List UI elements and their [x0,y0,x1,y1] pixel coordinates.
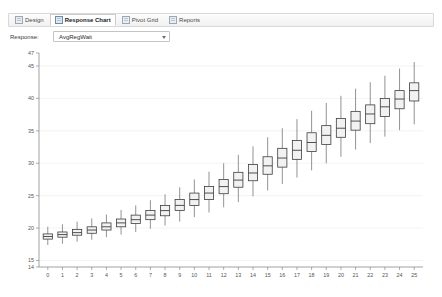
design-icon [15,16,23,24]
y-tick-label: 25 [28,193,34,199]
box-whisker-group [336,96,345,157]
x-tick-label: 5 [120,272,123,278]
tab-design[interactable]: Design [10,14,49,26]
y-tick-label: 45 [28,63,34,69]
tab-response-chart-label: Response Chart [65,14,111,26]
x-tick-label: 23 [382,272,388,278]
report-icon [169,16,177,24]
grid-icon [122,16,130,24]
x-tick-label: 1 [61,272,64,278]
y-tick-label: 35 [28,128,34,134]
tab-pivot-grid[interactable]: Pivot Grid [117,14,163,26]
box-whisker-group [307,111,316,171]
chart-area: 1415202530354045470123456789101112131415… [8,45,434,291]
tab-pivot-grid-label: Pivot Grid [132,14,158,26]
box-whisker-group [248,146,257,196]
x-tick-label: 19 [323,272,329,278]
response-selector-row: Response: AvgRegWait [8,31,434,43]
box-plot-svg: 1415202530354045470123456789101112131415… [8,45,434,291]
x-tick-label: 4 [105,272,108,278]
box-whisker-group [380,76,389,137]
x-tick-label: 12 [221,272,227,278]
x-tick-label: 16 [279,272,285,278]
box [395,91,404,109]
response-label: Response: [10,32,39,42]
box [410,83,419,101]
window-top-strip [0,0,442,12]
box-whisker-group [263,137,272,190]
x-tick-label: 8 [164,272,167,278]
x-tick-label: 10 [191,272,197,278]
box-whisker-group [292,119,301,177]
tab-design-label: Design [25,14,44,26]
box-whisker-group [146,200,155,229]
response-dropdown[interactable]: AvgRegWait [53,31,170,42]
x-tick-label: 20 [338,272,344,278]
x-tick-label: 21 [353,272,359,278]
tab-response-chart[interactable]: Response Chart [50,14,116,26]
tab-reports[interactable]: Reports [164,14,205,26]
y-tick-label: 14 [28,264,34,270]
x-tick-label: 18 [309,272,315,278]
x-tick-label: 13 [235,272,241,278]
x-tick-label: 11 [206,272,212,278]
x-tick-label: 17 [294,272,300,278]
response-chart-window: Design Response Chart Pivot Grid Reports… [0,0,442,297]
x-tick-label: 0 [46,272,49,278]
x-tick-label: 15 [265,272,271,278]
box-whisker-group [351,89,360,150]
y-tick-label: 30 [28,160,34,166]
x-tick-label: 9 [178,272,181,278]
box-whisker-group [175,187,184,221]
box-whisker-group [43,227,52,245]
x-tick-label: 14 [250,272,256,278]
box-whisker-group [73,222,82,242]
tab-bar: Design Response Chart Pivot Grid Reports [8,13,434,27]
box-whisker-group [204,172,213,213]
tab-reports-label: Reports [179,14,200,26]
x-tick-label: 2 [76,272,79,278]
chart-icon [55,16,63,24]
box-whisker-group [234,155,243,202]
box-whisker-group [219,163,228,207]
y-tick-label: 40 [28,95,34,101]
box-whisker-group [278,128,287,184]
box-whisker-group [102,214,111,237]
box-whisker-group [58,224,67,243]
x-tick-label: 6 [134,272,137,278]
box-whisker-group [190,179,199,217]
x-tick-label: 7 [149,272,152,278]
y-tick-label: 20 [28,225,34,231]
x-tick-label: 25 [411,272,417,278]
box-whisker-group [410,62,419,124]
y-tick-label: 15 [28,257,34,263]
box-whisker-group [366,82,375,143]
box-whisker-group [87,218,96,239]
box-whisker-group [395,69,404,131]
box [380,98,389,116]
box-whisker-group [116,210,125,235]
y-tick-label: 47 [28,50,34,56]
box-whisker-group [322,103,331,163]
x-tick-label: 24 [397,272,403,278]
box-whisker-group [160,194,169,225]
chevron-down-icon [162,36,166,39]
x-tick-label: 3 [90,272,93,278]
response-dropdown-value: AvgRegWait [59,32,92,43]
x-tick-label: 22 [367,272,373,278]
